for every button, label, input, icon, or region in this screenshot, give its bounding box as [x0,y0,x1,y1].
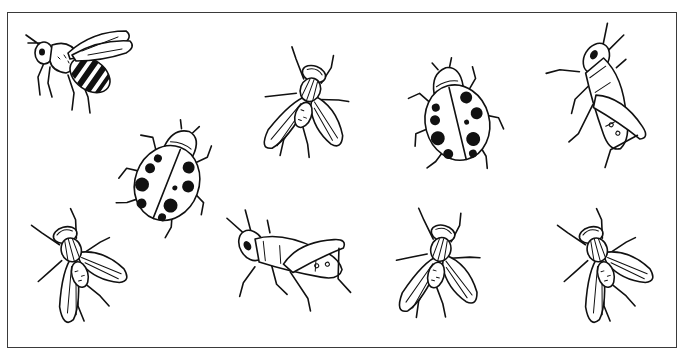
bee-drawing-icon [22,25,142,120]
